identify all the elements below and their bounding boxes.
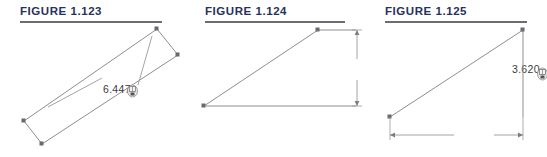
triangle-hypotenuse [204,30,318,106]
arrowhead-right [518,133,523,138]
parallelogram-outline [24,29,178,144]
figure-panel-1: FIGURE 1.123 6.447 [0,0,183,157]
vertex-marker-right [176,53,180,57]
vertex-marker-bottom [40,142,44,146]
vertex-marker-top [155,27,159,31]
mouse-cursor-icon [126,82,139,98]
arrowhead-bottom [355,101,360,106]
vertex-marker-left [22,119,26,123]
vertex-marker-left [388,115,392,119]
figure-panel-2: FIGURE 1.124 3.620 [183,0,366,157]
vertex-marker-apex [521,28,525,32]
triangle-diagram [183,0,366,157]
triangle-hypotenuse [390,30,523,117]
arrowhead-left [390,133,395,138]
figure-drawing-1 [0,0,183,157]
figure-drawing-2 [183,0,366,157]
figure-drawing-3 [366,0,547,157]
figures-sheet: FIGURE 1.123 6.447 [0,0,547,157]
parallelogram-diagram [0,0,183,157]
dimension-line-segment-a [48,78,102,107]
vertex-marker-apex [316,28,320,32]
vertex-marker-left [202,104,206,108]
arrowhead-top [355,30,360,35]
dimension-line-segment-b [138,36,152,85]
triangle-diagram [366,0,547,157]
figure-panel-3: FIGURE 1.125 5.336 [366,0,547,157]
